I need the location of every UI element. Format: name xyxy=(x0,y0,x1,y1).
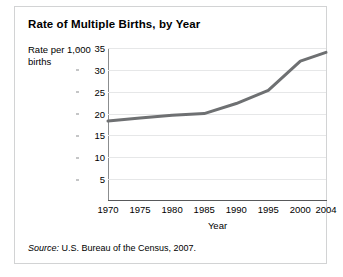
y-tick-label-15: 15 xyxy=(79,130,105,141)
y-tick-mark xyxy=(76,135,79,136)
series-line-multiple-births xyxy=(108,48,326,201)
y-tick-mark xyxy=(76,48,79,49)
y-tick-label-20: 20 xyxy=(79,108,105,119)
x-tick-label-1985: 1985 xyxy=(194,204,215,215)
source-label: Source: xyxy=(28,243,59,253)
x-axis-line xyxy=(108,200,327,201)
x-tick-label-1995: 1995 xyxy=(258,204,279,215)
chart-card: Rate of Multiple Births, by Year Rate pe… xyxy=(14,6,327,264)
x-tick-label-2004: 2004 xyxy=(315,204,336,215)
y-tick-label-25: 25 xyxy=(79,86,105,97)
y-tick-mark xyxy=(76,92,79,93)
x-axis-title: Year xyxy=(108,220,327,231)
source-text: U.S. Bureau of the Census, 2007. xyxy=(59,243,196,253)
plot-area xyxy=(108,48,326,201)
source-note: Source: U.S. Bureau of the Census, 2007. xyxy=(28,243,196,253)
y-tick-label-5: 5 xyxy=(79,174,105,185)
y-tick-mark xyxy=(76,70,79,71)
y-tick-label-30: 30 xyxy=(79,64,105,75)
y-axis-tick-labels: 5101520253035 xyxy=(75,48,105,201)
y-tick-mark xyxy=(76,114,79,115)
y-tick-label-10: 10 xyxy=(79,152,105,163)
y-tick-label-35: 35 xyxy=(79,43,105,54)
x-tick-label-1980: 1980 xyxy=(162,204,183,215)
x-tick-label-1975: 1975 xyxy=(129,204,150,215)
chart-title: Rate of Multiple Births, by Year xyxy=(28,18,200,30)
gridlines-and-series xyxy=(108,48,326,201)
series-line xyxy=(108,52,326,121)
y-tick-mark xyxy=(76,157,79,158)
x-axis-tick-labels: 19701975198019851990199520002004 xyxy=(108,204,327,218)
y-tick-mark xyxy=(76,179,79,180)
x-tick-label-1990: 1990 xyxy=(226,204,247,215)
x-tick-label-2000: 2000 xyxy=(290,204,311,215)
x-tick-label-1970: 1970 xyxy=(97,204,118,215)
